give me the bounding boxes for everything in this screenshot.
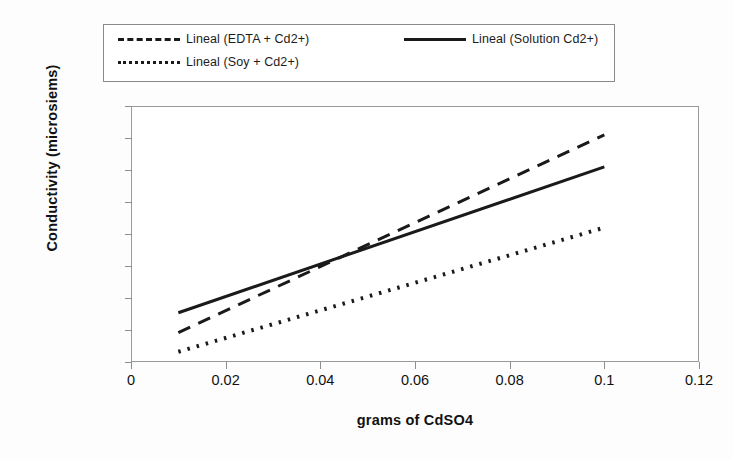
x-tick-mark — [131, 362, 132, 369]
legend-entry-solution: Lineal (Solution Cd2+) — [404, 30, 598, 48]
legend-swatch-dashed-icon — [118, 33, 180, 45]
legend-label-soy: Lineal (Soy + Cd2+) — [186, 55, 299, 69]
series-line — [178, 135, 604, 333]
x-tick-label: 0 — [96, 372, 166, 388]
legend-entry-soy: Lineal (Soy + Cd2+) — [118, 53, 299, 71]
x-tick-mark — [604, 362, 605, 369]
x-tick-mark — [226, 362, 227, 369]
x-tick-label: 0.1 — [569, 372, 639, 388]
chart-container: Lineal (EDTA + Cd2+) Lineal (Solution Cd… — [0, 0, 733, 459]
x-tick-label: 0.06 — [380, 372, 450, 388]
chart-legend: Lineal (EDTA + Cd2+) Lineal (Solution Cd… — [103, 24, 615, 82]
y-axis-title: Conductivity (microsiems) — [44, 28, 60, 288]
x-tick-label: 0.12 — [664, 372, 733, 388]
x-tick-mark — [699, 362, 700, 369]
legend-swatch-dotted-icon — [118, 56, 180, 68]
x-tick-label: 0.04 — [285, 372, 355, 388]
legend-label-solution: Lineal (Solution Cd2+) — [472, 32, 598, 46]
legend-entry-edta: Lineal (EDTA + Cd2+) — [118, 30, 309, 48]
x-axis-title: grams of CdSO4 — [131, 412, 699, 428]
legend-swatch-solid-icon — [404, 33, 466, 45]
x-tick-label: 0.08 — [475, 372, 545, 388]
x-tick-mark — [320, 362, 321, 369]
legend-label-edta: Lineal (EDTA + Cd2+) — [186, 32, 309, 46]
x-tick-mark — [415, 362, 416, 369]
series-line — [178, 167, 604, 313]
series-layer — [131, 106, 699, 362]
x-tick-label: 0.02 — [191, 372, 261, 388]
x-tick-mark — [510, 362, 511, 369]
